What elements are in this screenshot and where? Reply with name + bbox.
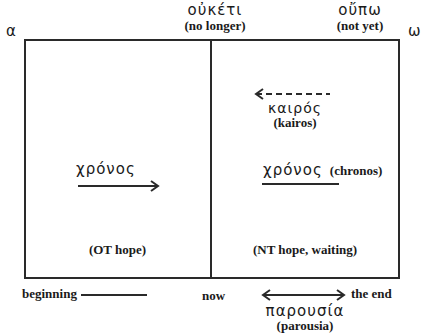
beginning-label: beginning [22, 286, 77, 302]
parousia-gloss: (parousia) [260, 319, 350, 333]
ouketi-greek: οὐκέτι [160, 2, 270, 19]
right-chronos-gloss: (chronos) [330, 163, 382, 178]
ouketi-gloss: (no longer) [160, 19, 270, 33]
ouketi-group: οὐκέτι (no longer) [160, 2, 270, 33]
backward-dashed-arrow-icon [254, 88, 334, 100]
nt-hope-caption: (NT hope, waiting) [212, 242, 398, 258]
double-arrow-icon [262, 289, 346, 301]
forward-arrow-icon [78, 180, 162, 192]
the-end-label: the end [351, 286, 392, 302]
ot-hope-caption: (OT hope) [24, 242, 211, 258]
chronos-underline [262, 183, 339, 185]
kairos-group: καιρός (kairos) [255, 100, 335, 130]
parousia-greek: παρουσία [260, 303, 350, 319]
oupo-greek: οὔπω [320, 2, 400, 19]
oupo-group: οὔπω (not yet) [320, 2, 400, 33]
now-label: now [202, 288, 225, 304]
kairos-greek: καιρός [255, 100, 335, 116]
beginning-line [81, 294, 147, 296]
left-chronos-label: χρόνος [76, 160, 136, 178]
parousia-group: παρουσία (parousia) [260, 303, 350, 333]
kairos-gloss: (kairos) [255, 116, 335, 130]
right-chronos-greek: χρόνος [263, 161, 323, 179]
alpha-label: α [6, 22, 17, 40]
omega-label: ω [408, 22, 422, 40]
oupo-gloss: (not yet) [320, 19, 400, 33]
right-chronos-group: χρόνος (chronos) [263, 160, 382, 179]
